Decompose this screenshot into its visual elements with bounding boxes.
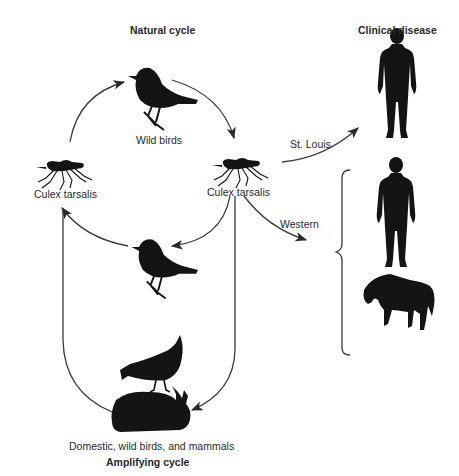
- arrow-bird-to-mosquito: [62, 208, 128, 246]
- arrow-mosquito-to-bird: [172, 196, 230, 246]
- arrow-wild-birds-to-mosquito: [172, 80, 234, 138]
- human-top-icon: [378, 28, 417, 138]
- label-western: Western: [280, 218, 319, 230]
- horse-icon: [364, 274, 435, 330]
- bracket-western: [336, 170, 350, 355]
- mosquito-right-icon: [212, 158, 268, 188]
- rabbit-icon: [112, 386, 191, 432]
- mosquito-left-icon: [36, 160, 92, 190]
- heading-clinical-disease: Clinical disease: [358, 24, 437, 36]
- arrow-mosquito-to-wild-birds: [70, 82, 124, 142]
- label-mosquito-right: Culex tarsalis: [207, 186, 270, 198]
- human-bottom-icon: [377, 157, 416, 267]
- wild-bird-icon: [128, 68, 198, 130]
- heading-amplifying-cycle: Amplifying cycle: [106, 456, 189, 468]
- label-hosts: Domestic, wild birds, and mammals: [69, 440, 234, 452]
- diagram-canvas: [0, 0, 459, 476]
- label-mosquito-left: Culex tarsalis: [34, 188, 97, 200]
- line-hosts-to-mosquito: [63, 208, 112, 412]
- chicken-icon: [120, 335, 183, 392]
- label-st-louis: St. Louis: [290, 138, 331, 150]
- label-wild-birds: Wild birds: [136, 134, 182, 146]
- heading-natural-cycle: Natural cycle: [130, 24, 195, 36]
- bird-lower-icon: [132, 239, 199, 298]
